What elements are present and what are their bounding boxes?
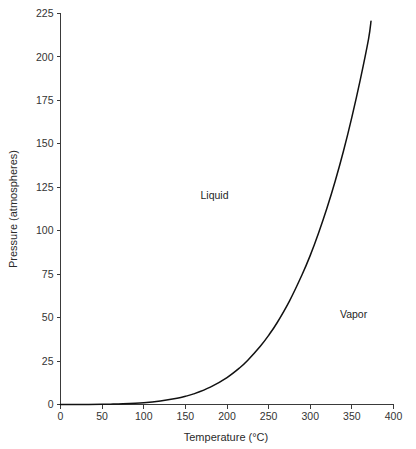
plot-axes <box>61 14 394 405</box>
x-tick-label: 400 <box>385 410 403 422</box>
x-tick-label: 50 <box>96 410 108 422</box>
y-tick-label: 125 <box>36 181 54 193</box>
y-axis-ticks: 0255075100125150175200225 <box>36 7 61 410</box>
y-tick-label: 225 <box>36 7 54 19</box>
x-tick-label: 350 <box>343 410 361 422</box>
liquid-vapor-boundary-curve <box>61 21 372 404</box>
y-tick-label: 50 <box>42 311 54 323</box>
y-tick-label: 200 <box>36 51 54 63</box>
y-axis-title: Pressure (atmospheres) <box>7 150 19 268</box>
phase-diagram-figure: 0255075100125150175200225 05010015020025… <box>0 0 416 449</box>
chart-canvas: 0255075100125150175200225 05010015020025… <box>0 0 416 449</box>
x-tick-label: 100 <box>135 410 153 422</box>
region-label-liquid: Liquid <box>200 189 228 201</box>
x-tick-label: 150 <box>177 410 195 422</box>
y-tick-label: 150 <box>36 137 54 149</box>
x-tick-label: 200 <box>218 410 236 422</box>
x-tick-label: 300 <box>301 410 319 422</box>
y-tick-label: 100 <box>36 224 54 236</box>
region-label-vapor: Vapor <box>340 308 368 320</box>
y-tick-label: 25 <box>42 355 54 367</box>
x-tick-label: 0 <box>58 410 64 422</box>
y-tick-label: 0 <box>48 398 54 410</box>
x-tick-label: 250 <box>260 410 278 422</box>
data-series-group <box>61 21 372 404</box>
y-tick-label: 175 <box>36 94 54 106</box>
x-axis-title: Temperature (°C) <box>184 431 268 443</box>
y-tick-label: 75 <box>42 268 54 280</box>
x-axis-ticks: 050100150200250300350400 <box>58 405 403 422</box>
region-annotations: LiquidVapor <box>200 189 367 319</box>
